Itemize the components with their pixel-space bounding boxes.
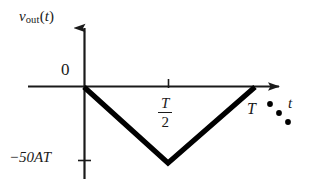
fraction-numerator: T [158,96,172,112]
x-tick-label-half-period: T 2 [158,96,172,130]
waveform-figure: vout(t) 0 −50AT T 2 T t [0,0,316,181]
x-tick-label-period: T [247,101,256,117]
y-axis-paren-close: ) [49,8,54,24]
y-axis-label: vout(t) [19,9,54,26]
y-tick-label-minimum: −50AT [9,150,51,165]
origin-zero-label: 0 [61,61,70,78]
ellipsis-dot-2 [276,110,282,116]
ellipsis-dot-3 [285,119,291,125]
fraction-bar [158,112,172,113]
fraction-denominator: 2 [158,114,172,130]
y-axis-variable: v [19,8,26,24]
x-axis-label: t [288,96,292,111]
ellipsis-dot-1 [267,101,273,107]
y-axis-subscript: out [26,14,40,25]
